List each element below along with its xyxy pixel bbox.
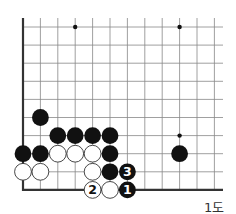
black-stone — [84, 127, 101, 144]
white-stone — [32, 163, 49, 180]
black-stone — [171, 145, 188, 162]
white-stone — [67, 145, 84, 162]
move-number: 1 — [123, 182, 132, 197]
star-point — [73, 25, 77, 29]
go-board: 321 — [0, 0, 236, 214]
white-stone — [15, 163, 32, 180]
diagram-caption: 1도 — [204, 197, 224, 214]
black-stone — [49, 127, 66, 144]
white-stone — [84, 145, 101, 162]
move-number: 3 — [123, 164, 132, 179]
white-stone — [102, 182, 119, 199]
black-stone — [102, 145, 119, 162]
white-stone — [49, 145, 66, 162]
black-stone — [67, 127, 84, 144]
black-stone-move-3: 3 — [119, 163, 136, 180]
star-point — [177, 25, 181, 29]
black-stone — [32, 145, 49, 162]
white-stone — [84, 163, 101, 180]
move-number: 2 — [88, 182, 97, 197]
star-point — [177, 133, 181, 137]
white-stone-move-2: 2 — [84, 182, 101, 199]
black-stone — [102, 163, 119, 180]
black-stone — [102, 127, 119, 144]
black-stone — [32, 109, 49, 126]
black-stone-move-1: 1 — [119, 182, 136, 199]
black-stone — [15, 145, 32, 162]
